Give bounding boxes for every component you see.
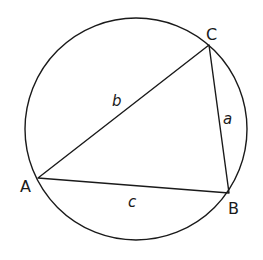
triangle-circle-diagram: A B C b a c xyxy=(0,0,263,260)
side-label-c: c xyxy=(128,193,137,211)
triangle-abc xyxy=(38,45,229,193)
vertex-label-b: B xyxy=(228,199,239,218)
vertex-label-c: C xyxy=(206,25,217,44)
vertex-label-a: A xyxy=(20,177,31,196)
side-label-b: b xyxy=(112,92,122,110)
side-label-a: a xyxy=(223,110,232,128)
